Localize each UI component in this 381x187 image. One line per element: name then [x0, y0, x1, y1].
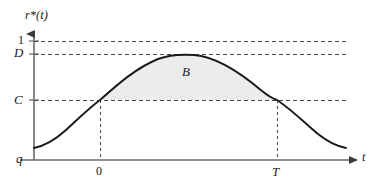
shaded-region-label-b: B	[182, 65, 190, 78]
y-tick-label-c: C	[14, 93, 23, 106]
y-axis-label: r*(t)	[25, 9, 48, 22]
y-tick-label-q: q	[16, 152, 23, 165]
chart-canvas	[0, 0, 381, 187]
x-axis-label: t	[362, 151, 365, 163]
y-tick-label-d: D	[14, 46, 23, 59]
figure-container: r*(t) t 1 D C q 0 T B	[0, 0, 381, 187]
vertical-markers	[100, 100, 277, 160]
x-tick-label-zero: 0	[96, 165, 102, 177]
x-tick-label-t: T	[272, 165, 279, 178]
